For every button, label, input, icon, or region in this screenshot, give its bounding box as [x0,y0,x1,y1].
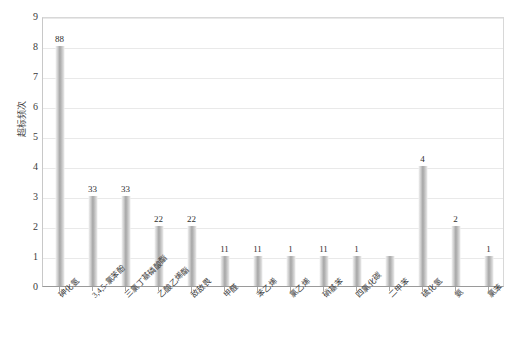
y-tick-label-4: 4 [16,162,38,172]
bar-slot[interactable]: 22 [175,18,208,286]
y-axis-tick-labels: 0123456789 [14,0,38,360]
bar[interactable] [484,256,493,286]
bar-chart: 超标频次 0123456789 883333222211111111421 砷化… [0,0,522,360]
bar-slot[interactable]: 33 [109,18,142,286]
bar-value-label: 1 [486,244,491,254]
plot-area: 883333222211111111421 [42,17,504,287]
y-tick-label-3: 3 [16,192,38,202]
bar-value-label: 88 [55,34,64,44]
bar-slot[interactable]: 22 [142,18,175,286]
bar[interactable] [253,256,262,286]
bar-value-label: 33 [121,184,130,194]
bar-slot[interactable] [373,18,406,286]
y-tick-label-6: 6 [16,102,38,112]
bar[interactable] [418,166,427,286]
bar-value-label: 11 [220,244,229,254]
bar[interactable] [286,256,295,286]
bar-slot[interactable]: 4 [406,18,439,286]
y-tick-label-9: 9 [16,12,38,22]
bar[interactable] [451,226,460,286]
y-tick-label-8: 8 [16,42,38,52]
bar-value-label: 22 [154,214,163,224]
bar-value-label: 1 [354,244,359,254]
bar-value-label: 11 [253,244,262,254]
bar-series: 883333222211111111421 [43,18,503,286]
bar[interactable] [352,256,361,286]
bar[interactable] [220,256,229,286]
y-tick-label-5: 5 [16,132,38,142]
y-tick-label-1: 1 [16,252,38,262]
bar-slot[interactable]: 11 [241,18,274,286]
bar-slot[interactable]: 1 [472,18,505,286]
bar[interactable] [88,196,97,286]
bar-slot[interactable]: 2 [439,18,472,286]
bar-slot[interactable]: 1 [274,18,307,286]
x-tick-label: 氨 [452,286,465,299]
bar-slot[interactable]: 1 [340,18,373,286]
y-tick-label-2: 2 [16,222,38,232]
bar-slot[interactable]: 11 [307,18,340,286]
bar-slot[interactable]: 33 [76,18,109,286]
bar[interactable] [319,256,328,286]
y-tick-label-0: 0 [16,282,38,292]
bar-value-label: 22 [187,214,196,224]
y-tick-label-7: 7 [16,72,38,82]
bar-slot[interactable]: 11 [208,18,241,286]
bar-value-label: 33 [88,184,97,194]
bar[interactable] [55,46,64,286]
bar[interactable] [385,256,394,286]
bar-value-label: 11 [319,244,328,254]
bar-value-label: 1 [288,244,293,254]
bar-slot[interactable]: 88 [43,18,76,286]
bar-value-label: 4 [420,154,425,164]
bar-value-label: 2 [453,214,458,224]
bar[interactable] [187,226,196,286]
